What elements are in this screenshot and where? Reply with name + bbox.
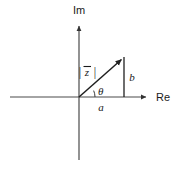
angle-theta-arc [94, 91, 95, 97]
angle-theta-label: θ [98, 85, 104, 97]
magnitude-right-bar: | [94, 65, 96, 79]
argand-diagram-canvas: Im Re θ | z | a b [0, 0, 174, 169]
imaginary-component-label: b [129, 71, 135, 83]
magnitude-left-bar: | [79, 65, 81, 79]
real-component-label: a [98, 101, 104, 113]
magnitude-label-group: | z | [79, 65, 96, 79]
magnitude-variable-z: z [84, 66, 90, 78]
real-axis-label: Re [156, 91, 170, 103]
imaginary-axis-label: Im [73, 4, 85, 16]
argand-diagram-figure: Im Re θ | z | a b [0, 0, 174, 169]
